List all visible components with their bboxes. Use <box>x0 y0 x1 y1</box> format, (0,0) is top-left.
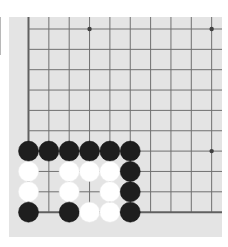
white-stone[interactable] <box>59 161 79 181</box>
side-panel-edge <box>0 17 1 55</box>
black-stone[interactable] <box>120 182 140 202</box>
star-point-icon <box>209 149 213 153</box>
black-stone[interactable] <box>120 141 140 161</box>
star-point-icon <box>87 27 91 31</box>
black-stone[interactable] <box>80 141 100 161</box>
black-stone[interactable] <box>59 202 79 222</box>
black-stone[interactable] <box>39 141 59 161</box>
white-stone[interactable] <box>80 161 100 181</box>
go-board-grid[interactable] <box>9 17 222 237</box>
black-stone[interactable] <box>120 161 140 181</box>
white-stone[interactable] <box>19 182 39 202</box>
white-stone[interactable] <box>19 161 39 181</box>
white-stone[interactable] <box>100 161 120 181</box>
black-stone[interactable] <box>19 202 39 222</box>
go-board[interactable] <box>9 17 222 237</box>
white-stone[interactable] <box>59 182 79 202</box>
star-point-icon <box>209 27 213 31</box>
black-stone[interactable] <box>59 141 79 161</box>
white-stone[interactable] <box>100 182 120 202</box>
black-stone[interactable] <box>19 141 39 161</box>
black-stone[interactable] <box>120 202 140 222</box>
white-stone[interactable] <box>80 202 100 222</box>
white-stone[interactable] <box>100 202 120 222</box>
black-stone[interactable] <box>100 141 120 161</box>
